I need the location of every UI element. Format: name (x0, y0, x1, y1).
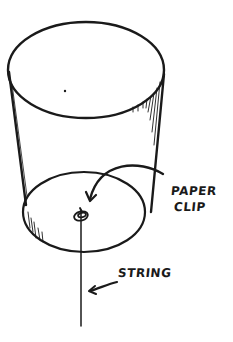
cup-rim (8, 22, 164, 118)
speck (64, 90, 66, 92)
paper-clip-label-line1: PAPER (170, 184, 217, 198)
string-label: STRING (117, 266, 172, 280)
cup-diagram: PAPER CLIP STRING (0, 0, 233, 342)
paper-clip-label-line2: CLIP (173, 200, 206, 214)
shading-hatch-left (28, 212, 43, 242)
cup-illustration (0, 0, 233, 342)
